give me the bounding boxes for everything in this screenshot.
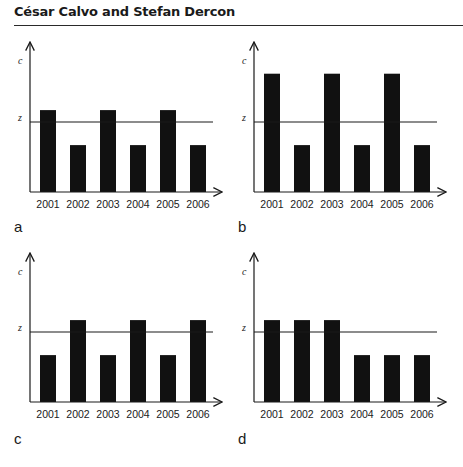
panel-b: 200120022003200420052006zcb <box>238 42 446 235</box>
x-tick-label: 2004 <box>350 408 374 420</box>
x-tick-label: 2001 <box>36 408 60 420</box>
bar-2001 <box>264 74 280 192</box>
x-tick-label: 2003 <box>96 408 120 420</box>
x-tick-label: 2006 <box>186 408 210 420</box>
panel-letter: a <box>14 218 23 235</box>
z-label: z <box>241 322 246 333</box>
x-tick-label: 2003 <box>320 198 344 210</box>
bar-2005 <box>160 355 176 402</box>
x-tick-label: 2001 <box>260 198 284 210</box>
panel-letter: b <box>238 218 246 235</box>
bar-2003 <box>100 355 116 402</box>
figure-panels: 200120022003200420052006zca2001200220032… <box>0 0 463 467</box>
y-axis-label: c <box>242 266 247 277</box>
x-tick-label: 2005 <box>380 408 404 420</box>
x-tick-label: 2001 <box>36 198 60 210</box>
x-tick-label: 2004 <box>350 198 374 210</box>
bar-2005 <box>384 355 400 402</box>
y-axis-label: c <box>18 266 23 277</box>
x-tick-label: 2002 <box>66 198 90 210</box>
y-axis-label: c <box>18 55 23 66</box>
z-label: z <box>17 112 22 123</box>
bar-2004 <box>354 355 370 402</box>
bar-2006 <box>414 355 430 402</box>
bar-2002 <box>294 145 310 192</box>
z-label: z <box>241 112 246 123</box>
z-label: z <box>17 322 22 333</box>
panel-a: 200120022003200420052006zca <box>14 42 222 235</box>
bar-2002 <box>70 145 86 192</box>
bar-2004 <box>130 145 146 192</box>
x-tick-label: 2004 <box>126 408 150 420</box>
panel-letter: c <box>14 430 22 447</box>
x-tick-label: 2005 <box>156 198 180 210</box>
y-axis-label: c <box>242 55 247 66</box>
panel-d: 200120022003200420052006zcd <box>238 253 446 447</box>
panel-c: 200120022003200420052006zcc <box>14 253 222 447</box>
x-tick-label: 2003 <box>320 408 344 420</box>
bar-2006 <box>414 145 430 192</box>
x-tick-label: 2006 <box>186 198 210 210</box>
panel-letter: d <box>238 430 246 447</box>
x-tick-label: 2002 <box>290 198 314 210</box>
x-tick-label: 2005 <box>156 408 180 420</box>
bar-2006 <box>190 145 206 192</box>
bar-2001 <box>40 355 56 402</box>
x-tick-label: 2003 <box>96 198 120 210</box>
x-tick-label: 2004 <box>126 198 150 210</box>
x-tick-label: 2006 <box>410 198 434 210</box>
x-tick-label: 2002 <box>290 408 314 420</box>
bar-2003 <box>324 74 340 192</box>
x-tick-label: 2006 <box>410 408 434 420</box>
x-tick-label: 2005 <box>380 198 404 210</box>
bar-2004 <box>354 145 370 192</box>
x-tick-label: 2002 <box>66 408 90 420</box>
bar-2005 <box>384 74 400 192</box>
x-tick-label: 2001 <box>260 408 284 420</box>
